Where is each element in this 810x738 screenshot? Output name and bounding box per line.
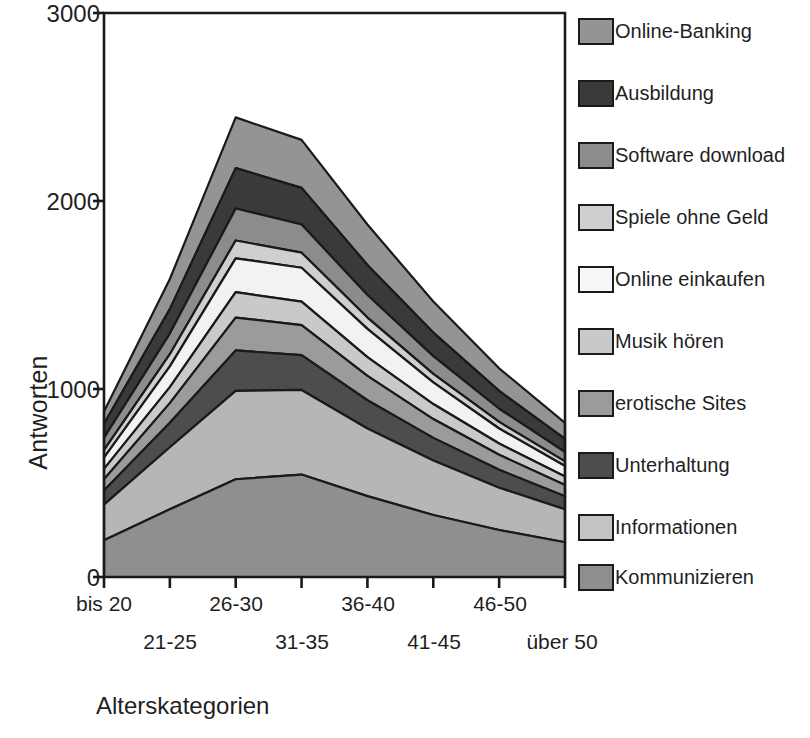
legend-swatch-icon <box>578 266 614 293</box>
legend-item: Kommunizieren <box>578 560 754 594</box>
x-axis-title: Alterskategorien <box>96 692 269 720</box>
legend-label: erotische Sites <box>615 393 746 413</box>
legend-swatch-icon <box>578 18 614 45</box>
legend-item: Musik hören <box>578 324 724 358</box>
x-tick-label-36-40: 36-40 <box>341 592 395 616</box>
legend-label: Unterhaltung <box>615 455 730 475</box>
x-tick-label-31-35: 31-35 <box>275 630 329 654</box>
legend-item: Informationen <box>578 510 737 544</box>
x-tick-label-21-25: 21-25 <box>143 630 197 654</box>
legend-swatch-icon <box>578 80 614 107</box>
legend-label: Informationen <box>615 517 737 537</box>
legend-swatch-icon <box>578 452 614 479</box>
legend-label: Online-Banking <box>615 21 752 41</box>
legend-item: Online einkaufen <box>578 262 765 296</box>
legend-swatch-icon <box>578 514 614 541</box>
legend-item: Online-Banking <box>578 14 752 48</box>
legend-item: Software download <box>578 138 785 172</box>
legend-swatch-icon <box>578 564 614 591</box>
x-tick-label-bis-20: bis 20 <box>76 592 132 616</box>
legend-label: Musik hören <box>615 331 724 351</box>
legend-label: Online einkaufen <box>615 269 765 289</box>
legend-swatch-icon <box>578 390 614 417</box>
legend-label: Ausbildung <box>615 83 714 103</box>
legend-item: Spiele ohne Geld <box>578 200 768 234</box>
y-tick-label-3000: 3000 <box>38 0 100 28</box>
legend-item: erotische Sites <box>578 386 746 420</box>
x-tick-label-41-45: 41-45 <box>407 630 461 654</box>
x-tick-label-26-30: 26-30 <box>209 592 263 616</box>
y-tick-label-0: 0 <box>38 564 100 592</box>
legend-swatch-icon <box>578 204 614 231</box>
stacked-area-chart: Antworten 3000 2000 1000 0 bis 20 21-25 … <box>0 0 810 738</box>
y-tick-label-2000: 2000 <box>38 188 100 216</box>
legend-label: Kommunizieren <box>615 567 754 587</box>
legend-item: Unterhaltung <box>578 448 730 482</box>
legend-swatch-icon <box>578 328 614 355</box>
legend-label: Software download <box>615 145 785 165</box>
legend-label: Spiele ohne Geld <box>615 207 768 227</box>
legend-swatch-icon <box>578 142 614 169</box>
x-tick-label-46-50: 46-50 <box>473 592 527 616</box>
y-axis-title: Antworten <box>24 313 53 513</box>
legend: Online-BankingAusbildungSoftware downloa… <box>578 0 810 738</box>
legend-item: Ausbildung <box>578 76 714 110</box>
y-tick-label-1000: 1000 <box>38 376 100 404</box>
